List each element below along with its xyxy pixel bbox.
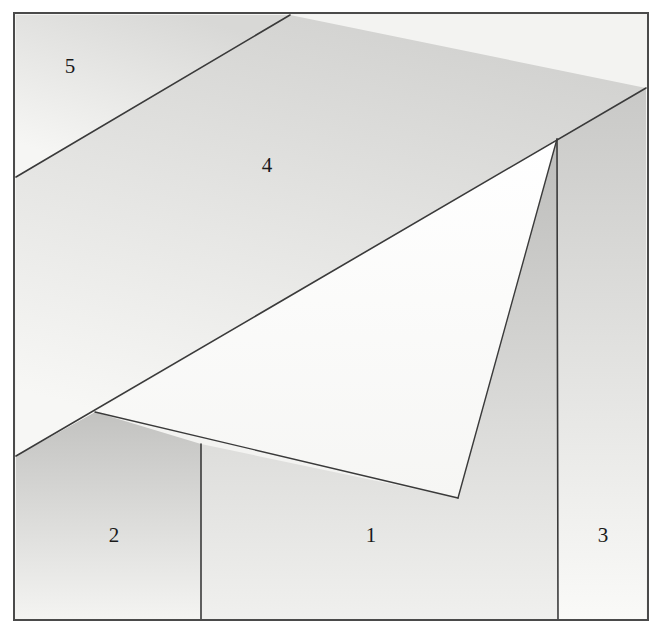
label-2: 2 [109,523,120,547]
geometric-figure-svg: Large lower-middle region bounded by the… [0,0,661,636]
label-3: 3 [598,523,609,547]
region-2[interactable]: Lower-left region left of the vertical d… [16,412,201,620]
label-1: 1 [366,523,377,547]
label-4: 4 [262,153,273,177]
figure-root: Large lower-middle region bounded by the… [0,0,661,636]
label-5: 5 [65,54,76,78]
line-divider-1-3 [557,139,558,620]
